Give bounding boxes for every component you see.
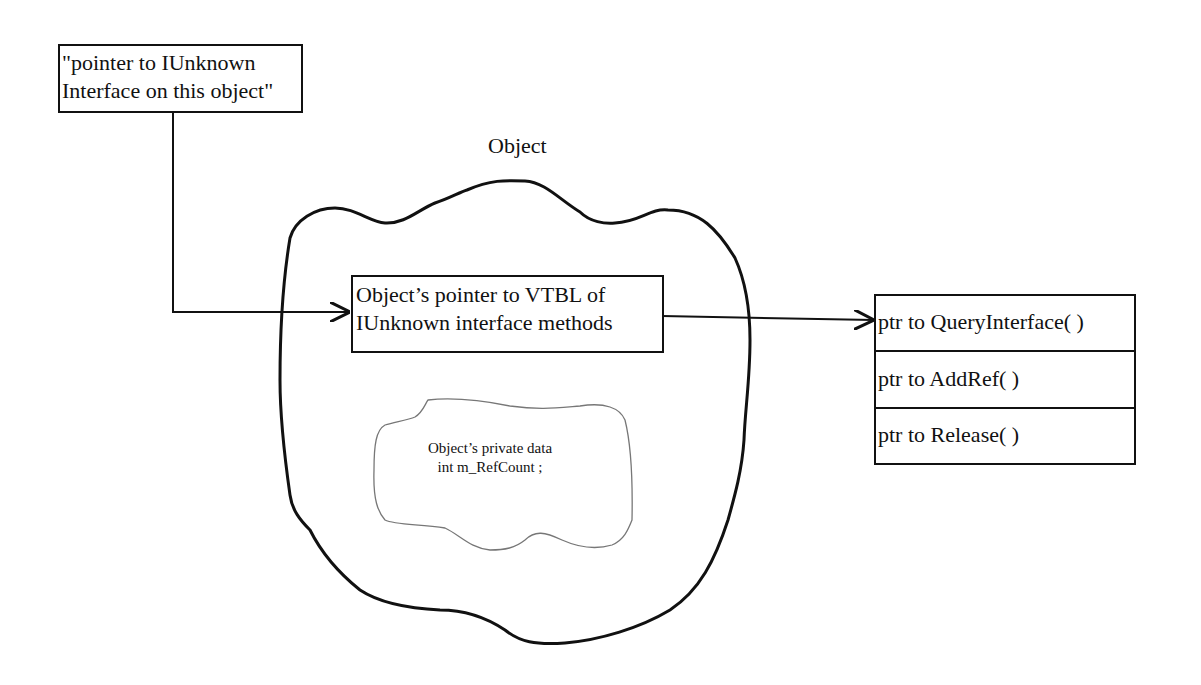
vtable-row-release: ptr to Release( ) [876, 409, 1134, 465]
vtable: ptr to QueryInterface( ) ptr to AddRef( … [874, 294, 1136, 465]
vtable-row-label: ptr to AddRef( ) [878, 366, 1019, 391]
vtable-row-label: ptr to QueryInterface( ) [878, 309, 1084, 334]
private-data-text: Object’s private data int m_RefCount ; [405, 439, 575, 477]
pointer-box-line-1: "pointer to IUnknown [62, 49, 301, 77]
pointer-connector [173, 112, 350, 312]
vtable-row-label: ptr to Release( ) [878, 422, 1019, 447]
vtbl-pointer-line-1: Object’s pointer to VTBL of [356, 281, 662, 309]
vtable-row-addref: ptr to AddRef( ) [876, 352, 1134, 409]
pointer-box-line-2: Interface on this object" [62, 77, 301, 105]
private-data-line-2: int m_RefCount ; [405, 458, 575, 477]
vtbl-connector [662, 316, 874, 320]
vtbl-pointer-line-2: IUnknown interface methods [356, 309, 662, 337]
vtbl-pointer-box: Object’s pointer to VTBL of IUnknown int… [351, 275, 664, 353]
object-boundary [280, 181, 750, 644]
vtable-row-queryinterface: ptr to QueryInterface( ) [876, 296, 1134, 352]
private-data-line-1: Object’s private data [405, 439, 575, 458]
object-label: Object [488, 132, 547, 160]
iunknown-pointer-box: "pointer to IUnknown Interface on this o… [58, 44, 303, 113]
